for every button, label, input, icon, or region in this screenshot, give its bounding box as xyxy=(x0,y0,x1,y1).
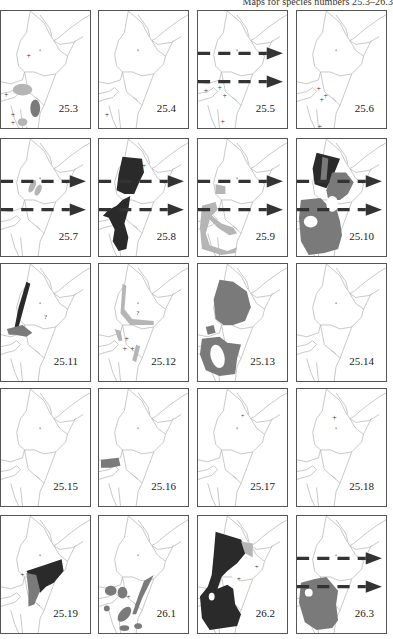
map-panel: 25.14 xyxy=(296,263,387,382)
svg-text:+: + xyxy=(4,90,9,99)
map-panel: + + + + +25.3 xyxy=(0,10,91,129)
svg-text:+: + xyxy=(126,593,130,600)
map-panel: 25.16 xyxy=(98,388,189,507)
map-label: 25.18 xyxy=(349,480,374,492)
map-label: 25.3 xyxy=(59,102,78,114)
map-panel: + 25.8 xyxy=(98,138,189,257)
map-label: 25.9 xyxy=(256,230,275,242)
map-label: 25.10 xyxy=(349,230,374,242)
map-panel: + + + + 25.5 xyxy=(197,10,288,129)
map-panel: +25.4 xyxy=(98,10,189,129)
svg-text:+: + xyxy=(130,344,135,353)
svg-text:+: + xyxy=(105,110,110,119)
map-label: 25.17 xyxy=(250,480,275,492)
map-panel: 26.3 xyxy=(296,515,387,634)
svg-text:+: + xyxy=(24,124,29,128)
map-label: 25.8 xyxy=(157,230,176,242)
map-panel: 25.13 xyxy=(197,263,288,382)
svg-text:+: + xyxy=(318,122,323,128)
map-panel: +26.1 xyxy=(98,515,189,634)
svg-text:+: + xyxy=(332,413,337,422)
map-label: 25.16 xyxy=(151,480,176,492)
map-label: 25.4 xyxy=(157,102,176,114)
map-panel: ? + + +25.12 xyxy=(98,263,189,382)
svg-text:?: ? xyxy=(44,313,47,320)
map-label: 26.2 xyxy=(256,607,275,619)
map-panel: 25.10 xyxy=(296,138,387,257)
page-header: Maps for species numbers 25.3–26.3 xyxy=(242,0,393,7)
map-label: 25.13 xyxy=(250,355,275,367)
map-label: 25.5 xyxy=(256,102,275,114)
map-label: 25.19 xyxy=(53,607,78,619)
map-panel: 25.15 xyxy=(0,388,91,507)
map-label: 25.14 xyxy=(349,355,374,367)
map-panel: + +26.2 xyxy=(197,515,288,634)
map-label: 25.7 xyxy=(59,230,78,242)
svg-text:+: + xyxy=(26,51,31,60)
svg-text:+: + xyxy=(21,571,25,578)
svg-text:+: + xyxy=(11,118,16,127)
map-label: 26.3 xyxy=(355,607,374,619)
map-panel: 25.7 xyxy=(0,138,91,257)
svg-text:+: + xyxy=(255,563,259,570)
svg-text:+: + xyxy=(317,84,322,93)
svg-text:+: + xyxy=(319,95,324,104)
map-label: 25.15 xyxy=(53,480,78,492)
svg-text:+: + xyxy=(237,575,241,582)
svg-text:+: + xyxy=(124,334,129,343)
svg-text:?: ? xyxy=(136,309,139,316)
map-panel: + + + +25.6 xyxy=(296,10,387,129)
svg-text:+: + xyxy=(241,413,245,419)
map-panel: +25.18 xyxy=(296,388,387,507)
map-label: 26.1 xyxy=(157,607,176,619)
map-label: 25.12 xyxy=(151,355,176,367)
map-panel: +25.17 xyxy=(197,388,288,507)
svg-text:+: + xyxy=(122,344,127,353)
svg-text:+: + xyxy=(323,91,328,100)
map-label: 25.6 xyxy=(355,102,374,114)
map-panel: ?25.11 xyxy=(0,263,91,382)
map-panel: +25.19 xyxy=(0,515,91,634)
map-label: 25.11 xyxy=(54,355,78,367)
map-panel: 25.9 xyxy=(197,138,288,257)
